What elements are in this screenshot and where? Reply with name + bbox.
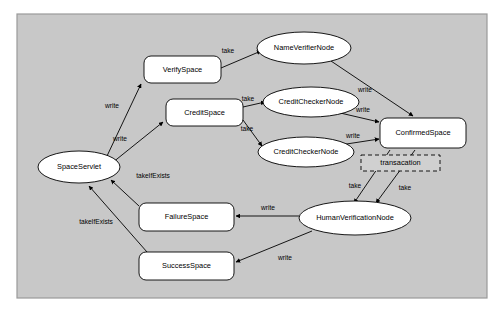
edge-transaction-human-take-label: take — [399, 184, 412, 191]
node-credit-checker-node-2[interactable]: CreditCheckerNode — [258, 137, 354, 167]
edge-success-servlet-label: takeIfExists — [79, 218, 113, 225]
node-label-confirmed-space: ConfirmedSpace — [395, 128, 450, 137]
node-label-credit-space: CreditSpace — [184, 108, 225, 117]
node-confirmed-space[interactable]: ConfirmedSpace — [380, 118, 466, 148]
edge-checker1-confirmed-label: write — [355, 106, 370, 113]
architecture-diagram: SpaceServletVerifySpaceCreditSpaceNameVe… — [0, 0, 504, 313]
node-failure-space[interactable]: FailureSpace — [139, 203, 234, 231]
node-label-verify-space: VerifySpace — [163, 65, 202, 74]
node-label-credit-checker-node-1: CreditCheckerNode — [279, 97, 344, 106]
node-credit-checker-node-1[interactable]: CreditCheckerNode — [263, 87, 359, 117]
node-credit-space[interactable]: CreditSpace — [166, 99, 243, 126]
edge-servlet-verifyspace-label: write — [104, 102, 119, 109]
node-label-success-space: SuccessSpace — [162, 261, 211, 270]
node-label-name-verifier-node: NameVerifierNode — [274, 43, 334, 52]
edge-human-failure-label: write — [260, 204, 275, 211]
node-label-space-servlet: SpaceServlet — [57, 162, 101, 171]
edge-nameverifier-confirmed-label: write — [357, 86, 372, 93]
node-label-failure-space: FailureSpace — [165, 212, 209, 221]
node-verify-space[interactable]: VerifySpace — [144, 56, 221, 83]
node-name-verifier-node[interactable]: NameVerifierNode — [257, 32, 351, 64]
edge-checker2-confirmed-label: write — [345, 132, 360, 139]
node-transaction[interactable]: transacation — [361, 155, 440, 171]
node-space-servlet[interactable]: SpaceServlet — [38, 151, 120, 183]
edge-verifyspace-nameverifier-label: take — [222, 47, 235, 54]
node-label-credit-checker-node-2: CreditCheckerNode — [274, 147, 339, 156]
edge-servlet-creditspace-label: write — [112, 135, 127, 142]
node-success-space[interactable]: SuccessSpace — [139, 252, 234, 280]
edge-failure-servlet-label: takeIfExists — [136, 172, 170, 179]
edge-confirmed-human-take-left-label: take — [349, 182, 362, 189]
node-label-human-verification-node: HumanVerificationNode — [316, 213, 394, 222]
node-label-transaction: transacation — [380, 158, 420, 167]
edge-human-success-label: write — [277, 254, 292, 261]
edge-creditspace-checker2-label: take — [241, 125, 254, 132]
node-human-verification-node[interactable]: HumanVerificationNode — [299, 201, 411, 235]
diagram-canvas: SpaceServletVerifySpaceCreditSpaceNameVe… — [0, 0, 504, 313]
edge-creditspace-checker1-label: take — [242, 95, 255, 102]
